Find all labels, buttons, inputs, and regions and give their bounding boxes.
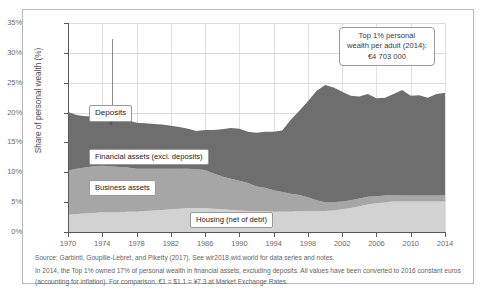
y-tick-label: 35%: [0, 18, 22, 27]
x-tick-label: 1982: [154, 239, 188, 248]
x-tick-mark: [274, 233, 275, 237]
x-axis-line: [68, 232, 446, 233]
x-tick-label: 1970: [51, 239, 85, 248]
x-tick-mark: [376, 233, 377, 237]
x-gridline: [445, 23, 446, 232]
y-tick-label: 15%: [0, 137, 22, 146]
x-tick-label: 2002: [325, 239, 359, 248]
x-tick-mark: [411, 233, 412, 237]
y-tick-label: 5%: [0, 197, 22, 206]
footer-notes: Source: Garbinti, Goupille-Lebret, and P…: [35, 253, 467, 287]
y-axis-title: Share of personal wealth (%): [34, 16, 43, 186]
x-tick-mark: [239, 233, 240, 237]
x-tick-mark: [342, 233, 343, 237]
x-tick-label: 1998: [291, 239, 325, 248]
x-tick-mark: [137, 233, 138, 237]
top-wealth-line-3: €4 703 000: [347, 52, 427, 62]
x-tick-label: 2006: [359, 239, 393, 248]
y-tick-label: 0%: [0, 227, 22, 236]
x-tick-label: 1986: [188, 239, 222, 248]
x-tick-label: 1974: [85, 239, 119, 248]
top-wealth-line-1: Top 1% personal: [347, 31, 427, 41]
y-tick-label: 10%: [0, 167, 22, 176]
x-tick-mark: [205, 233, 206, 237]
y-tick-label: 25%: [0, 78, 22, 87]
top-wealth-annotation: Top 1% personal wealth per adult (2014):…: [339, 27, 435, 66]
housing-label: Housing (net of debt): [190, 212, 273, 228]
y-tick-label: 20%: [0, 108, 22, 117]
y-tick-label: 30%: [0, 48, 22, 57]
x-tick-label: 1994: [257, 239, 291, 248]
top-wealth-line-2: wealth per adult (2014):: [347, 41, 427, 51]
x-tick-mark: [171, 233, 172, 237]
x-tick-label: 2014: [428, 239, 462, 248]
y-axis-line: [68, 23, 69, 233]
x-tick-label: 2010: [394, 239, 428, 248]
note-text: In 2014, the Top 1% owned 17% of persona…: [35, 266, 467, 287]
deposits-leader-line: [112, 39, 113, 105]
x-tick-mark: [102, 233, 103, 237]
source-text: Source: Garbinti, Goupille-Lebret, and P…: [35, 253, 467, 263]
business-assets-label: Business assets: [89, 180, 156, 196]
deposits-label: Deposits: [89, 105, 132, 122]
x-tick-mark: [445, 233, 446, 237]
x-tick-label: 1978: [120, 239, 154, 248]
x-tick-mark: [68, 233, 69, 237]
x-tick-mark: [308, 233, 309, 237]
x-tick-label: 1990: [222, 239, 256, 248]
financial-assets-label: Financial assets (excl. deposits): [89, 149, 209, 165]
chart-figure: Share of personal wealth (%) 0%5%10%15%2…: [22, 9, 474, 284]
